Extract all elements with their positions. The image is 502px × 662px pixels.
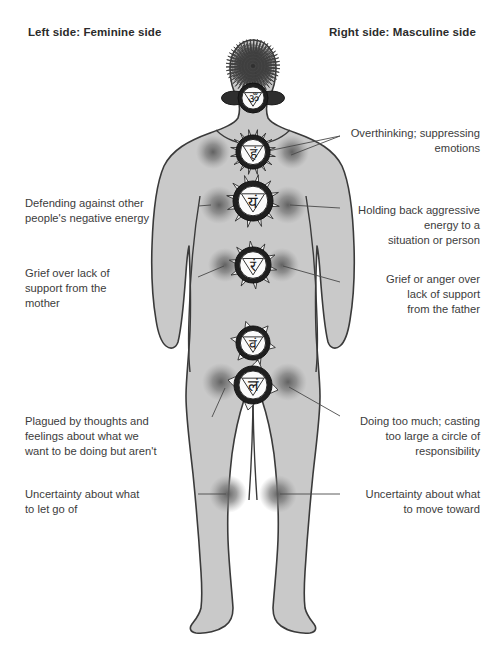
leader-line-group (198, 136, 340, 494)
vishuddha-throat-chakra-seed-glyph: हं (250, 145, 258, 161)
energy-dot-right-knee (259, 475, 297, 513)
annotation-holding-back: Holding back aggressive energy to a situ… (348, 203, 480, 249)
annotation-uncertainty-move-toward: Uncertainty about what to move toward (348, 487, 480, 517)
anahata-heart-chakra-seed-glyph: यं (248, 193, 258, 212)
grief-father-line (283, 266, 340, 282)
sahasrara-crown-chakra (226, 39, 280, 93)
manipura-solar-plexus-chakra-seed-glyph: रं (250, 257, 257, 274)
body-figure-artwork: ॐहंयंरंवंलं (0, 0, 502, 662)
overthinking-line-b (291, 136, 340, 155)
energy-dot-right-chest (269, 186, 307, 224)
body-silhouette (152, 40, 355, 633)
vishuddha-throat-chakra: हं (231, 130, 276, 175)
energy-dot-left-knee (209, 475, 247, 513)
energy-dot-left-hip (202, 363, 240, 401)
chakra-symbol-group: ॐहंयंरंवंलं (222, 39, 285, 410)
energy-dot-group (196, 135, 309, 513)
plagued-line (212, 388, 225, 417)
energy-dot-right-hip (269, 363, 307, 401)
chakra-diagram-canvas: Left side: Feminine side Right side: Mas… (0, 0, 502, 662)
annotation-overthinking: Overthinking; suppressing emotions (348, 126, 480, 156)
overthinking-line-a (263, 136, 340, 152)
manipura-solar-plexus-chakra: रं (229, 241, 276, 289)
annotation-grief-mother: Grief over lack of support from the moth… (25, 266, 195, 312)
ajna-third-eye-chakra-seed-glyph: ॐ (248, 92, 259, 106)
annotation-plagued: Plagued by thoughts and feelings about w… (25, 414, 205, 460)
muladhara-root-chakra-seed-glyph: लं (248, 377, 259, 395)
holding-back-line (290, 205, 340, 208)
header-left-feminine: Left side: Feminine side (28, 26, 161, 38)
grief-mother-line (198, 266, 224, 277)
annotation-uncertainty-let-go: Uncertainty about what to let go of (25, 487, 200, 517)
annotation-doing-too-much: Doing too much; casting too large a circ… (348, 414, 480, 460)
energy-dot-right-shoulder (275, 135, 309, 169)
energy-dot-left-waist (208, 248, 242, 282)
annotation-grief-father: Grief or anger over lack of support from… (348, 272, 480, 318)
energy-dot-left-shoulder (196, 135, 230, 169)
svadhisthana-sacral-chakra: वं (231, 321, 276, 364)
annotation-defending: Defending against other people's negativ… (25, 196, 195, 226)
doing-too-much-line (289, 387, 340, 416)
muladhara-root-chakra: लं (228, 360, 278, 410)
energy-dot-left-chest (200, 186, 238, 224)
defending-line (198, 205, 211, 206)
ajna-third-eye-chakra: ॐ (222, 83, 285, 113)
header-right-masculine: Right side: Masculine side (329, 26, 476, 38)
energy-dot-right-waist (265, 248, 299, 282)
svadhisthana-sacral-chakra-seed-glyph: वं (249, 336, 257, 352)
anahata-heart-chakra: यं (227, 175, 280, 228)
